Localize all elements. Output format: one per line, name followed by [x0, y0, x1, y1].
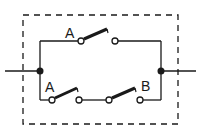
switch-contact-icon — [78, 38, 84, 44]
switch-blade-tip-icon — [77, 88, 78, 92]
wiring — [5, 41, 196, 100]
switch-contact-icon — [49, 97, 55, 103]
switch-contact-icon — [112, 38, 118, 44]
switch-contact-icon — [76, 97, 82, 103]
switch-blade-tip-icon — [107, 29, 108, 33]
right-junction-node — [158, 68, 165, 75]
bottom-switch-b-label: B — [141, 78, 150, 94]
top-switch-label: A — [65, 25, 75, 41]
switch-circuit-diagram: A A B — [0, 0, 205, 139]
switch-contact-icon — [106, 97, 112, 103]
switch-blade-icon — [84, 29, 107, 39]
top-switch-a — [78, 29, 118, 44]
switch-contact-icon — [137, 97, 143, 103]
left-junction-node — [37, 68, 44, 75]
switch-blade-icon — [112, 88, 135, 98]
switch-blade-tip-icon — [135, 88, 136, 92]
bottom-switch-a-label: A — [45, 79, 55, 95]
bottom-switch-b — [106, 88, 143, 103]
switch-blade-icon — [55, 88, 77, 98]
